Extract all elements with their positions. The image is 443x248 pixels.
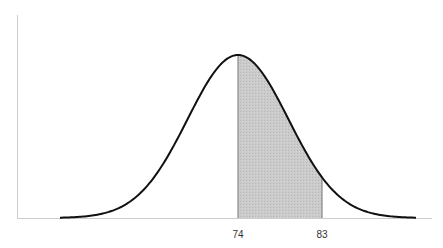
shaded-area	[238, 55, 322, 218]
x-tick-label-83: 83	[316, 229, 328, 240]
x-tick-label-74: 74	[232, 229, 244, 240]
normal-curve-chart: 74 83	[0, 0, 443, 248]
